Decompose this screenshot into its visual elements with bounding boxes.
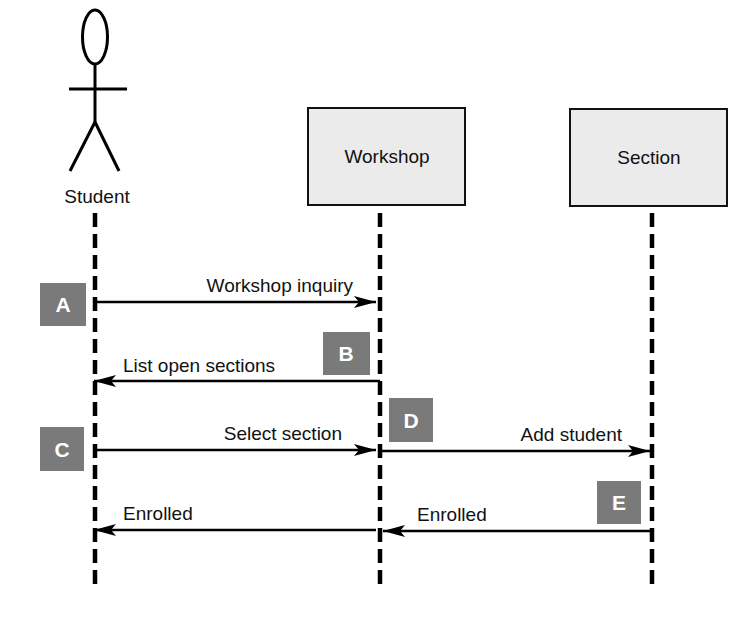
message-label-c: Select section: [224, 423, 342, 444]
svg-text:E: E: [612, 491, 626, 514]
svg-text:A: A: [55, 293, 70, 316]
actor-student-icon: [69, 10, 127, 171]
message-label-e: Enrolled: [417, 504, 487, 525]
object-workshop-label: Workshop: [344, 146, 429, 167]
message-label-b: List open sections: [123, 355, 275, 376]
step-badge-a: A: [40, 283, 86, 326]
object-section: Section: [570, 109, 727, 206]
object-workshop: Workshop: [308, 108, 465, 205]
svg-text:D: D: [403, 409, 418, 432]
message-label-f: Enrolled: [123, 503, 193, 524]
actor-label: Student: [64, 186, 130, 207]
step-badge-b: B: [323, 332, 370, 375]
sequence-diagram: Student Workshop Section Workshop inquir…: [0, 0, 748, 622]
step-badge-d: D: [389, 398, 433, 442]
message-label-a: Workshop inquiry: [207, 275, 354, 296]
message-label-d: Add student: [521, 424, 623, 445]
object-section-label: Section: [617, 147, 680, 168]
step-badge-c: C: [40, 427, 84, 471]
svg-text:B: B: [338, 342, 353, 365]
step-badge-e: E: [597, 481, 641, 524]
svg-text:C: C: [54, 438, 69, 461]
